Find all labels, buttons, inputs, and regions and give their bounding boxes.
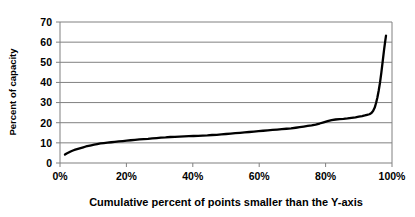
y-axis-title: Percent of capacity	[7, 48, 18, 136]
chart-figure: 010203040506070 0%20%40%60%80%100% Perce…	[0, 0, 415, 217]
y-tick-label-10: 10	[40, 137, 52, 149]
x-tick-label-60: 60%	[249, 170, 271, 182]
y-tick-label-30: 30	[40, 96, 52, 108]
x-axis-title: Cumulative percent of points smaller tha…	[89, 196, 363, 208]
x-tick-label-40: 40%	[182, 170, 204, 182]
x-tick-label-0: 0%	[52, 170, 68, 182]
y-tick-label-40: 40	[40, 76, 52, 88]
x-tick-label-80: 80%	[315, 170, 337, 182]
x-tick-label-20: 20%	[116, 170, 138, 182]
x-tick-label-100: 100%	[379, 170, 407, 182]
y-tick-label-60: 60	[40, 36, 52, 48]
chart-background	[0, 0, 415, 217]
y-tick-label-70: 70	[40, 16, 52, 28]
y-tick-label-20: 20	[40, 117, 52, 129]
y-tick-label-0: 0	[46, 157, 52, 169]
chart-canvas: 010203040506070 0%20%40%60%80%100% Perce…	[0, 0, 415, 217]
y-tick-label-50: 50	[40, 56, 52, 68]
